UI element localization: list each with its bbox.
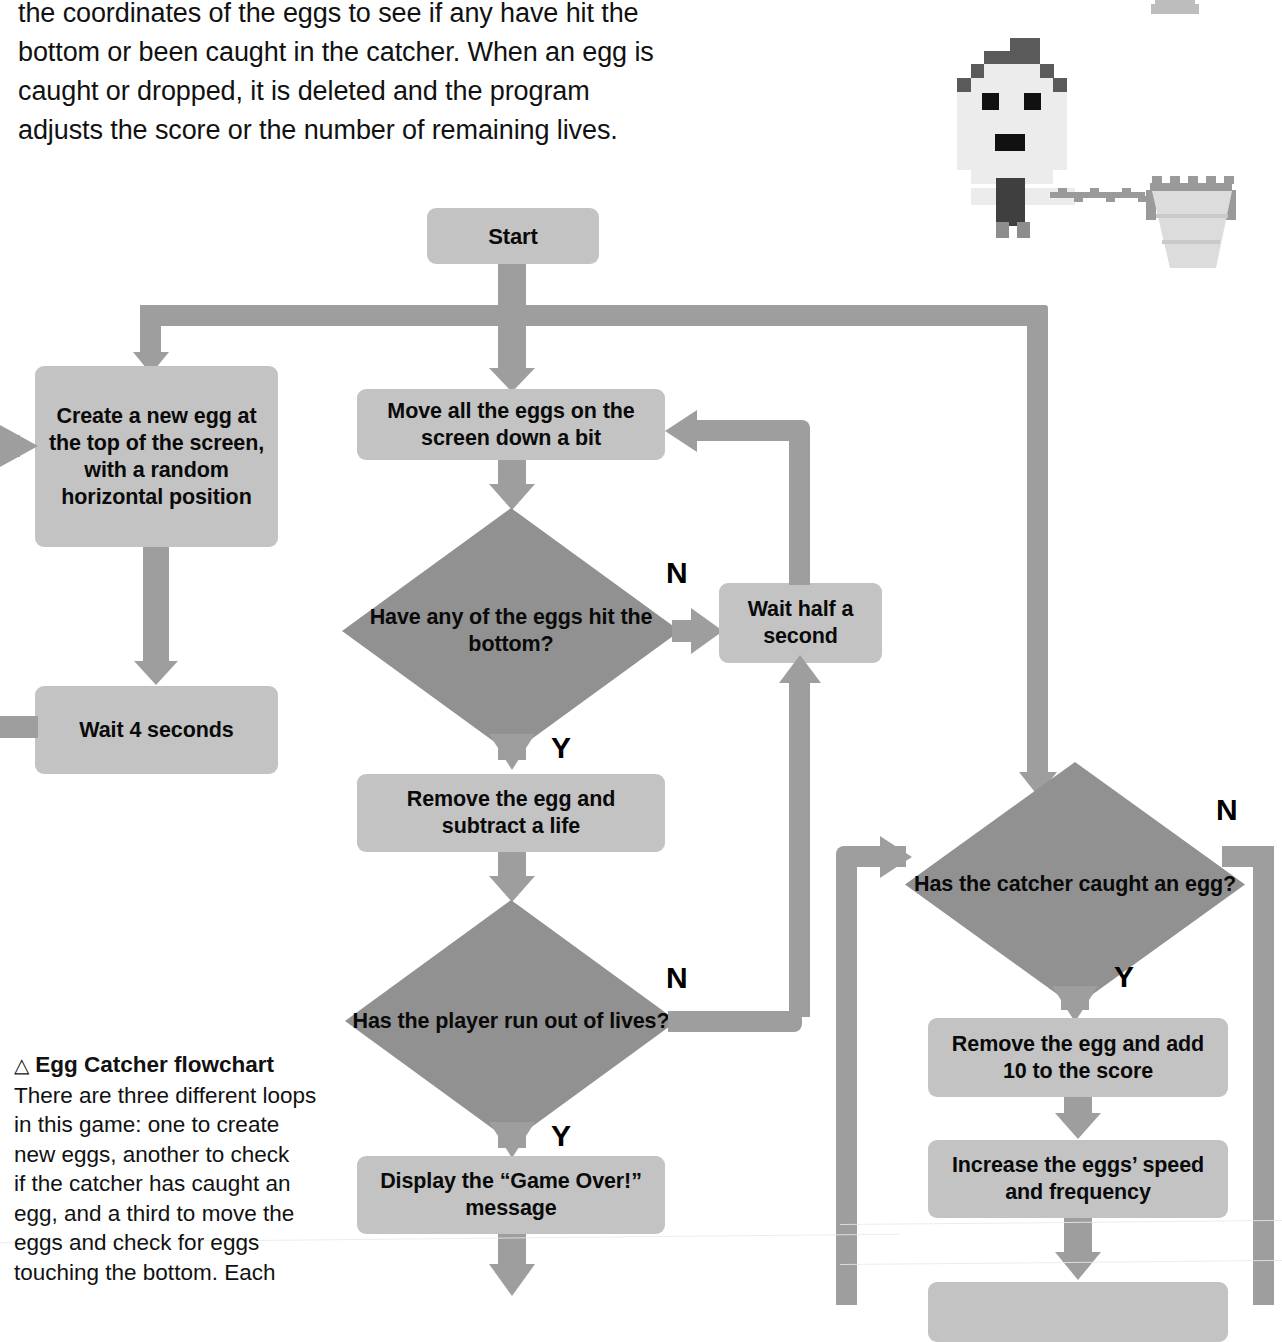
flow-node-wait-4-seconds[interactable]: Wait 4 seconds bbox=[35, 686, 278, 774]
caption-heading: △ Egg Catcher flowchart bbox=[14, 1050, 334, 1081]
flow-node-game-over[interactable]: Display the “Game Over!” message bbox=[357, 1156, 665, 1234]
arrowhead-removelife-to-lives bbox=[489, 876, 535, 902]
connector-removelife-to-lives bbox=[498, 852, 526, 880]
flow-node-start[interactable]: Start bbox=[427, 208, 599, 264]
arrowhead-move-to-hitbottom bbox=[489, 484, 535, 510]
connector-catcher-loop-vertical bbox=[836, 856, 857, 1305]
flow-node-bottom-cutoff[interactable] bbox=[928, 1282, 1228, 1342]
caption-title: Egg Catcher flowchart bbox=[35, 1052, 274, 1077]
connector-waithalf-left bbox=[686, 420, 810, 441]
scan-artifact-line bbox=[840, 1220, 1282, 1225]
arrowhead-into-move-eggs bbox=[665, 410, 697, 452]
connector-lives-no-horizontal bbox=[668, 1011, 802, 1032]
branch-label-catcher-yes: Y bbox=[1114, 962, 1134, 992]
caption-line: egg, and a third to move the bbox=[14, 1199, 334, 1229]
arrowhead-increase-to-waitbottom bbox=[1055, 1252, 1101, 1280]
branch-label-lives-yes: Y bbox=[551, 1121, 571, 1151]
flow-node-add-score[interactable]: Remove the egg and add 10 to the score bbox=[928, 1018, 1228, 1097]
flow-node-create-egg[interactable]: Create a new egg at the top of the scree… bbox=[35, 366, 278, 547]
connector-lives-no-vertical bbox=[789, 672, 810, 1017]
decision-label: Has the player run out of lives? bbox=[345, 900, 677, 1142]
flow-node-wait-half-second[interactable]: Wait half a second bbox=[719, 583, 882, 663]
branch-label-lives-no: N bbox=[666, 963, 688, 993]
triangle-marker-icon: △ bbox=[14, 1054, 29, 1076]
caption-line: if the catcher has caught an bbox=[14, 1169, 334, 1199]
connector-waithalf-up bbox=[789, 440, 810, 585]
flow-node-catcher-caught-egg[interactable]: Has the catcher caught an egg? bbox=[905, 762, 1245, 1007]
caption-line: new eggs, another to check bbox=[14, 1140, 334, 1170]
connector-to-catcher-vertical bbox=[1027, 312, 1048, 782]
connector-wait4-loop-left bbox=[0, 716, 38, 738]
connector-top-bus bbox=[140, 305, 1048, 326]
flow-node-move-eggs[interactable]: Move all the eggs on the screen down a b… bbox=[357, 389, 665, 460]
flow-node-eggs-hit-bottom[interactable]: Have any of the eggs hit the bottom? bbox=[342, 508, 680, 754]
scan-artifact-line bbox=[840, 1260, 1282, 1265]
flow-node-out-of-lives[interactable]: Has the player run out of lives? bbox=[345, 900, 677, 1142]
connector-gameover-down bbox=[498, 1234, 526, 1268]
caption-line: eggs and check for eggs bbox=[14, 1228, 334, 1258]
connector-to-create-egg bbox=[140, 305, 161, 357]
arrowhead-addscore-to-increase bbox=[1055, 1113, 1101, 1139]
branch-label-hitbottom-no: N bbox=[666, 558, 688, 588]
caption-line: in this game: one to create bbox=[14, 1110, 334, 1140]
connector-catcher-no-vertical bbox=[1253, 846, 1274, 1305]
connector-to-move-eggs bbox=[498, 305, 526, 373]
figure-caption: △ Egg Catcher flowchart There are three … bbox=[14, 1050, 334, 1287]
arrowhead-into-create-egg bbox=[0, 425, 38, 467]
arrowhead-gameover-down bbox=[489, 1264, 535, 1296]
decision-label: Has the catcher caught an egg? bbox=[905, 762, 1245, 1007]
branch-label-hitbottom-yes: Y bbox=[551, 733, 571, 763]
connector-create-to-wait4 bbox=[143, 547, 169, 667]
arrowhead-create-to-wait4 bbox=[134, 661, 178, 685]
branch-label-catcher-no: N bbox=[1216, 795, 1238, 825]
connector-move-to-hitbottom bbox=[498, 460, 526, 488]
caption-line: touching the bottom. Each bbox=[14, 1258, 334, 1288]
flow-node-remove-subtract-life[interactable]: Remove the egg and subtract a life bbox=[357, 774, 665, 852]
flow-node-increase-speed[interactable]: Increase the eggs’ speed and frequency bbox=[928, 1140, 1228, 1218]
connector-start-stem bbox=[498, 264, 526, 308]
caption-line: There are three different loops bbox=[14, 1081, 334, 1111]
decision-label: Have any of the eggs hit the bottom? bbox=[342, 508, 680, 754]
